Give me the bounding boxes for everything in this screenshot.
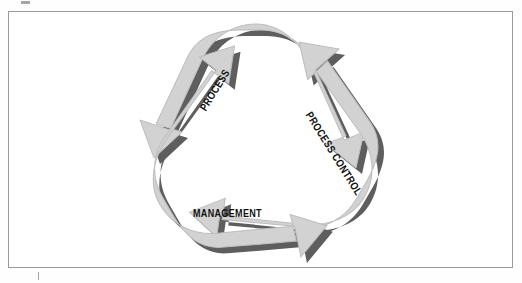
scan-artifact-top: [21, 1, 30, 4]
recycling-arrows-svg: [8, 11, 513, 268]
screenshot-canvas: PROCESS PROCESS CONTROL MANAGEMENT: [0, 0, 522, 283]
arrow-body-group: [106, 24, 422, 268]
label-management: MANAGEMENT: [193, 208, 262, 219]
cyclic-diagram: PROCESS PROCESS CONTROL MANAGEMENT: [8, 11, 513, 268]
scan-artifact-bottom: [38, 272, 39, 280]
